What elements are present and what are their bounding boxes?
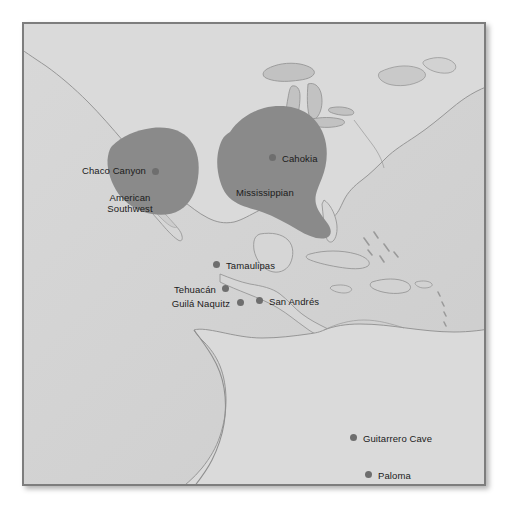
site-dot-chaco-canyon[interactable] (152, 168, 159, 175)
region-label-mississippian: Mississippian (236, 187, 294, 198)
site-label-tamaulipas: Tamaulipas (226, 260, 275, 271)
site-label-guitarrero-cave: Guitarrero Cave (363, 433, 432, 444)
region-label-line2: Southwest (90, 203, 170, 214)
site-label-paloma: Paloma (378, 470, 411, 481)
site-dot-san-andres[interactable] (256, 297, 263, 304)
site-dot-cahokia[interactable] (269, 154, 276, 161)
map-figure: American Southwest Mississippian Chaco C… (22, 22, 486, 486)
site-dot-guila-naquitz[interactable] (237, 299, 244, 306)
site-dot-tehuacan[interactable] (222, 285, 229, 292)
site-dot-tamaulipas[interactable] (213, 261, 220, 268)
region-label-american-southwest: American Southwest (90, 192, 170, 214)
site-label-chaco-canyon: Chaco Canyon (42, 165, 146, 176)
site-label-guila-naquitz: Guilá Naquitz (130, 298, 230, 309)
map-canvas (24, 24, 484, 484)
site-label-tehuacan: Tehuacán (136, 284, 216, 295)
region-label-line1: American (90, 192, 170, 203)
site-dot-guitarrero-cave[interactable] (350, 434, 357, 441)
site-label-cahokia: Cahokia (282, 153, 318, 164)
site-dot-paloma[interactable] (365, 471, 372, 478)
site-label-san-andres: San Andrés (269, 296, 319, 307)
